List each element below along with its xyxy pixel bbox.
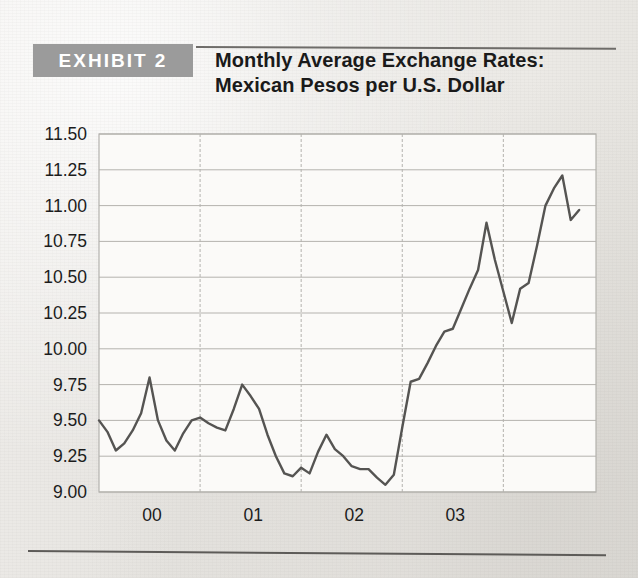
chart-plot-container: 11.5011.2511.0010.7510.5010.2510.009.759… xyxy=(0,0,638,578)
y-tick-label-9.75: 9.75 xyxy=(53,375,87,395)
y-axis-tick-labels: 11.5011.2511.0010.7510.5010.2510.009.759… xyxy=(43,124,87,502)
x-tick-label-01: 01 xyxy=(243,505,262,525)
y-tick-label-10.00: 10.00 xyxy=(43,339,87,359)
exchange-rate-line-chart: 11.5011.2511.0010.7510.5010.2510.009.759… xyxy=(0,0,638,578)
x-tick-label-02: 02 xyxy=(345,505,364,525)
x-axis-tick-labels: 00010203 xyxy=(142,505,465,525)
y-tick-label-9.50: 9.50 xyxy=(53,410,87,430)
y-tick-label-10.25: 10.25 xyxy=(43,303,87,323)
y-tick-label-11.00: 11.00 xyxy=(45,196,88,216)
y-tick-label-10.50: 10.50 xyxy=(43,267,87,287)
y-tick-label-11.50: 11.50 xyxy=(45,124,88,144)
x-tick-label-00: 00 xyxy=(142,505,162,525)
y-tick-label-11.25: 11.25 xyxy=(45,160,88,180)
y-tick-label-10.75: 10.75 xyxy=(43,231,87,251)
y-tick-label-9.25: 9.25 xyxy=(53,446,87,466)
x-tick-label-03: 03 xyxy=(446,505,465,525)
y-tick-label-9.00: 9.00 xyxy=(53,482,87,502)
